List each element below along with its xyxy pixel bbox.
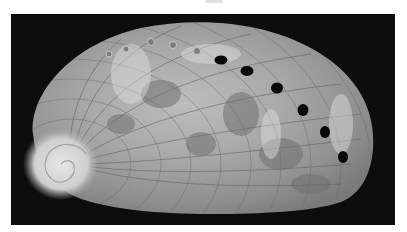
shell-illustration (11, 14, 395, 225)
shell-apex (23, 128, 99, 200)
top-edge-mark (205, 0, 223, 3)
abalone-shell-photo (11, 14, 395, 225)
